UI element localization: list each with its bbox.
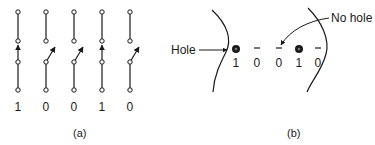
switch-closed bbox=[16, 10, 20, 92]
switch-open bbox=[72, 10, 83, 92]
tape-bit-label: 1 bbox=[233, 57, 240, 69]
no-hole-pointer-arrow bbox=[281, 18, 329, 45]
tape-bit-label: 0 bbox=[276, 57, 283, 69]
switch-closed bbox=[100, 10, 104, 92]
tape-bit-label: 1 bbox=[296, 57, 303, 69]
hole-label: Hole bbox=[171, 44, 196, 56]
switch-bit-label: 1 bbox=[99, 101, 106, 113]
tape-bit-label: 0 bbox=[315, 57, 322, 69]
switch-open bbox=[44, 10, 55, 92]
no-hole-label: No hole bbox=[331, 12, 372, 24]
switch-array bbox=[16, 10, 139, 92]
switch-bit-label: 0 bbox=[127, 101, 134, 113]
switch-bit-label: 0 bbox=[71, 101, 78, 113]
tape-left-edge bbox=[212, 10, 229, 92]
panel-a-caption: (a) bbox=[73, 128, 86, 139]
figure-canvas bbox=[0, 0, 375, 145]
switch-bit-label: 0 bbox=[43, 101, 50, 113]
hole-mark bbox=[295, 45, 303, 53]
switch-open bbox=[128, 10, 139, 92]
hole-mark bbox=[232, 45, 240, 53]
tape-marks bbox=[232, 45, 321, 53]
tape-bit-label: 0 bbox=[254, 57, 261, 69]
panel-b-caption: (b) bbox=[287, 128, 300, 139]
switch-bit-label: 1 bbox=[15, 101, 22, 113]
